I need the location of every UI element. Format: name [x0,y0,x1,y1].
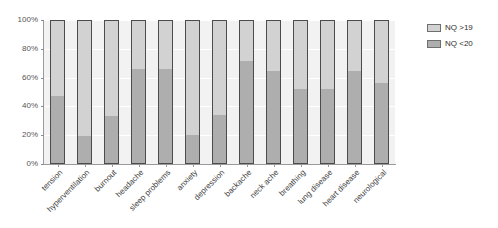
bar-segment-nq-lt-20[interactable] [78,136,91,163]
bar-group[interactable] [131,20,146,164]
bar-segment-nq-lt-20[interactable] [105,116,118,163]
bar-group[interactable] [293,20,308,164]
legend-item-nq-lt-20[interactable]: NQ <20 [427,37,493,50]
bar-segment-nq-gt-19[interactable] [212,20,227,164]
bar-segment-nq-gt-19[interactable] [293,20,308,164]
bar-segment-nq-lt-20[interactable] [267,71,280,163]
bar-group[interactable] [158,20,173,164]
legend: NQ >19 NQ <20 [427,21,493,53]
bar-segment-nq-lt-20[interactable] [375,83,388,163]
bar-group[interactable] [50,20,65,164]
bar-group[interactable] [185,20,200,164]
bar-group[interactable] [77,20,92,164]
bar-segment-nq-lt-20[interactable] [294,89,307,163]
bar-group[interactable] [239,20,254,164]
bar-segment-nq-gt-19[interactable] [239,20,254,164]
x-tick-label-sleep-problems: sleep problems [24,168,172,228]
bar-segment-nq-lt-20[interactable] [51,96,64,163]
y-axis: 100% 80% 60% 40% 20% 0% [0,0,44,184]
bar-segment-nq-gt-19[interactable] [158,20,173,164]
x-tick-label-anxiety: anxiety [51,168,199,228]
legend-label-nq-lt-20: NQ <20 [445,39,473,48]
bar-segment-nq-gt-19[interactable] [50,20,65,164]
x-tick-label-backache: backache [105,168,253,228]
y-tick-label-60: 60% [22,74,38,82]
bar-segment-nq-lt-20[interactable] [240,61,253,163]
legend-label-nq-gt-19: NQ >19 [445,23,473,32]
y-tick-label-100: 100% [18,16,38,24]
x-tick-label-neck-ache: neck ache [132,168,280,228]
bar-group[interactable] [266,20,281,164]
bar-segment-nq-lt-20[interactable] [132,69,145,163]
bar-segment-nq-gt-19[interactable] [266,20,281,164]
legend-swatch-nq-lt-20 [427,40,441,48]
bar-segment-nq-lt-20[interactable] [159,69,172,163]
x-tick-label-depression: depression [78,168,226,228]
bar-segment-nq-gt-19[interactable] [347,20,362,164]
bar-segment-nq-gt-19[interactable] [131,20,146,164]
bar-segment-nq-lt-20[interactable] [348,71,361,163]
x-tick-label-heart-disease: heart disease [213,168,361,228]
x-tick-label-neurological: neurological [240,168,388,228]
bar-segment-nq-gt-19[interactable] [185,20,200,164]
x-tick-label-lung-disease: lung disease [186,168,334,228]
stacked-bar-chart: 100% 80% 60% 40% 20% 0% tensionhypervent… [0,0,498,228]
bar-segment-nq-gt-19[interactable] [104,20,119,164]
y-tick-label-40: 40% [22,102,38,110]
bar-segment-nq-lt-20[interactable] [186,135,199,163]
legend-item-nq-gt-19[interactable]: NQ >19 [427,21,493,34]
bar-group[interactable] [347,20,362,164]
y-tick-label-0: 0% [26,160,38,168]
y-tick-label-20: 20% [22,131,38,139]
y-tick-mark [41,164,44,165]
bar-segment-nq-gt-19[interactable] [320,20,335,164]
bar-segment-nq-lt-20[interactable] [213,115,226,163]
bar-segment-nq-lt-20[interactable] [321,89,334,163]
bar-group[interactable] [320,20,335,164]
bar-group[interactable] [212,20,227,164]
bar-group[interactable] [374,20,389,164]
legend-swatch-nq-gt-19 [427,24,441,32]
bars-layer [44,20,395,164]
x-tick-label-breathing: breathing [159,168,307,228]
bar-segment-nq-gt-19[interactable] [77,20,92,164]
bar-segment-nq-gt-19[interactable] [374,20,389,164]
y-tick-label-80: 80% [22,45,38,53]
x-axis-line [44,164,396,165]
bar-group[interactable] [104,20,119,164]
